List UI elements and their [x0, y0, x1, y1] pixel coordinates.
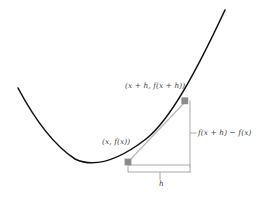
run-label: h — [159, 180, 164, 187]
difference-quotient-figure: (x + h, f(x + h)) (x, f(x)) f(x + h) − f… — [0, 0, 276, 199]
secant-line — [128, 101, 186, 162]
figure-canvas — [0, 0, 276, 199]
lower-point-label: (x, f(x)) — [102, 138, 130, 145]
upper-point-label: (x + h, f(x + h)) — [125, 82, 185, 89]
rise-label: f(x + h) − f(x) — [198, 129, 251, 136]
lower-point-marker — [125, 159, 132, 166]
upper-point-marker — [181, 97, 188, 104]
